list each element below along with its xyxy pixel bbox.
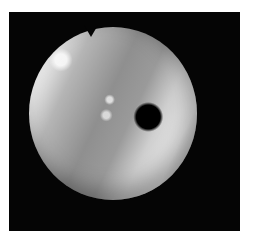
scope-notch	[84, 25, 98, 37]
endoscopic-view	[29, 27, 197, 200]
